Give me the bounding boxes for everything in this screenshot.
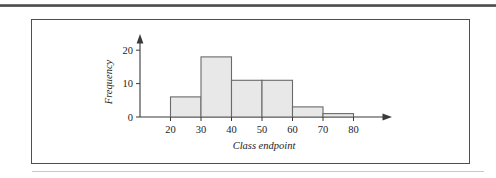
bar-70-80 — [323, 114, 354, 117]
bar-50-60 — [262, 80, 293, 117]
x-tick-label-70: 70 — [318, 124, 329, 135]
y-tick-label-0: 0 — [128, 112, 133, 123]
x-axis-title: Class endpoint — [233, 140, 297, 151]
bar-20-30 — [171, 97, 202, 117]
x-axis-arrow-icon — [383, 114, 393, 121]
figure-box: 0 10 20 20 30 40 50 60 70 80 — [31, 19, 470, 164]
y-axis-arrow-icon — [137, 34, 144, 44]
x-tick-label-60: 60 — [287, 124, 298, 135]
histogram-chart: 0 10 20 20 30 40 50 60 70 80 — [32, 20, 471, 165]
bar-60-70 — [293, 107, 324, 117]
bottom-page-rule — [32, 171, 484, 172]
x-tick-label-20: 20 — [165, 124, 176, 135]
y-axis-title: Frequency — [103, 59, 114, 105]
bar-30-40 — [201, 57, 232, 117]
x-tick-label-80: 80 — [348, 124, 359, 135]
y-tick-label-20: 20 — [123, 45, 134, 56]
histogram-svg: 0 10 20 20 30 40 50 60 70 80 — [32, 20, 471, 165]
x-tick-label-50: 50 — [257, 124, 268, 135]
bar-40-50 — [232, 80, 263, 117]
x-tick-label-30: 30 — [196, 124, 207, 135]
x-tick-label-40: 40 — [226, 124, 237, 135]
y-tick-label-10: 10 — [123, 78, 134, 89]
top-page-rule — [0, 4, 496, 7]
